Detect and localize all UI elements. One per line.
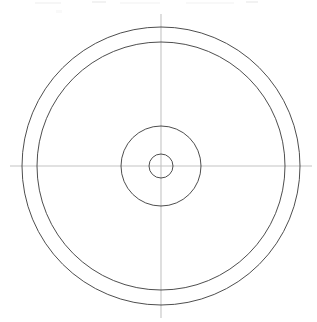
technical-drawing-svg <box>0 0 317 322</box>
drawing-canvas <box>0 0 317 322</box>
drawing-background <box>0 0 317 322</box>
